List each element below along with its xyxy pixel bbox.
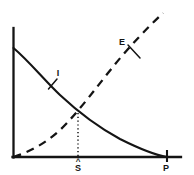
curve-label-i: I bbox=[57, 68, 60, 78]
leader-line-e bbox=[128, 45, 140, 58]
curve-label-e: E bbox=[119, 37, 125, 47]
figure-canvas: I E ^ S P bbox=[0, 0, 194, 175]
x-tick-label-s: S bbox=[75, 163, 81, 173]
axes-group bbox=[13, 28, 182, 158]
x-tick-label-p: P bbox=[163, 163, 169, 173]
curve-e bbox=[14, 13, 164, 157]
figure-container: I E ^ S P bbox=[0, 0, 194, 175]
curve-i bbox=[14, 48, 168, 157]
